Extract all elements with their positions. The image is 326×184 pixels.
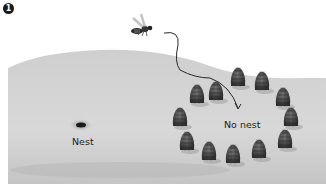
nest-label: Nest [72,136,94,147]
no-nest-label: No nest [224,119,260,130]
wasp-homing-diagram: 1 Nest No nest [0,0,326,184]
wasp-icon [131,14,152,36]
nest-hole-icon [70,119,92,131]
step-number-badge: 1 [3,3,14,14]
scene-illustration [0,0,326,184]
